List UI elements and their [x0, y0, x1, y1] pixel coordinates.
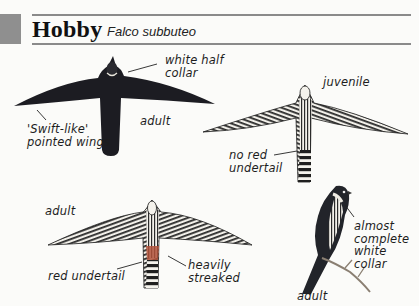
label-swift-like-wings: 'Swift-like' pointed wings	[27, 123, 110, 148]
label-white-half-collar: white half collar	[165, 54, 224, 79]
label-juvenile: juvenile	[323, 76, 370, 89]
label-heavily-streaked: heavily streaked	[188, 259, 240, 284]
label-no-red-undertail: no red undertail	[229, 149, 282, 174]
label-almost-complete-white-collar: almost complete white collar	[354, 220, 409, 270]
label-adult-perched: adult	[297, 290, 327, 303]
label-red-undertail: red undertail	[48, 270, 125, 283]
label-adult-underside: adult	[45, 205, 75, 218]
label-adult-upperside: adult	[140, 115, 170, 128]
